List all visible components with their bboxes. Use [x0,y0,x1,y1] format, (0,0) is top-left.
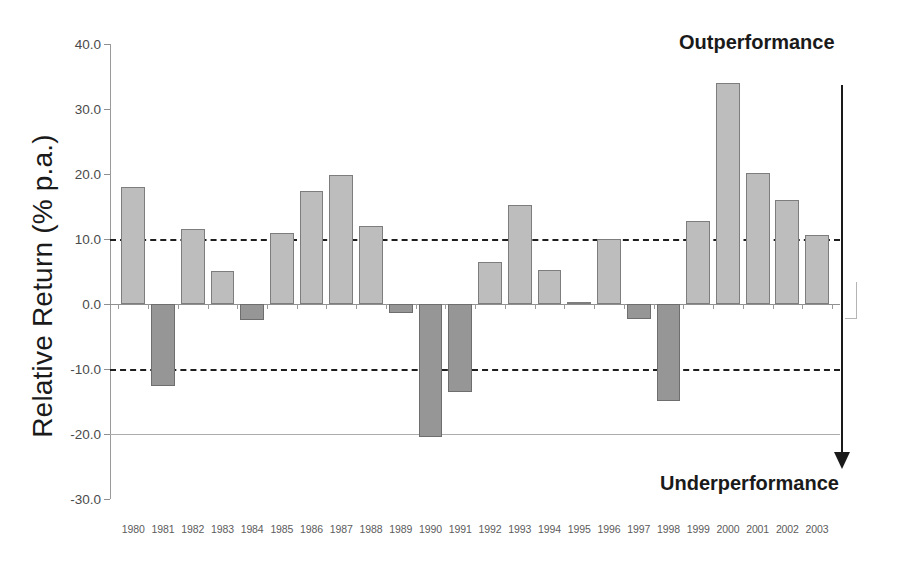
bar-1992 [478,262,502,304]
x-tick-label-1996: 1996 [597,523,620,535]
reference-line-solid [110,434,840,435]
y-tick-mark [104,174,110,175]
x-tick-mark [148,304,149,309]
x-tick-mark [237,304,238,309]
reference-line-dashed [110,369,840,371]
y-tick-label: 40.0 [75,37,101,52]
x-tick-label-2000: 2000 [716,523,739,535]
x-tick-label-2003: 2003 [806,523,829,535]
x-tick-mark [713,304,714,309]
y-tick-label: 10.0 [75,232,101,247]
x-tick-label-1992: 1992 [479,523,502,535]
x-tick-mark [505,304,506,309]
y-tick-mark [104,369,110,370]
y-tick-label: -10.0 [70,362,101,377]
y-axis-line [110,44,111,499]
x-tick-mark [356,304,357,309]
bar-1997 [627,304,651,319]
x-tick-mark [118,304,119,309]
bar-2002 [775,200,799,304]
bar-1984 [240,304,264,320]
x-tick-label-1999: 1999 [687,523,710,535]
bar-2001 [746,173,770,304]
bar-1989 [389,304,413,313]
bar-1994 [538,270,562,304]
x-tick-mark [416,304,417,309]
x-tick-mark [326,304,327,309]
y-tick-mark [104,434,110,435]
x-tick-mark [743,304,744,309]
bar-1981 [151,304,175,386]
x-tick-label-1988: 1988 [360,523,383,535]
y-tick-mark [104,44,110,45]
x-tick-label-2001: 2001 [746,523,769,535]
x-tick-mark [178,304,179,309]
bar-1996 [597,239,621,304]
x-tick-mark [654,304,655,309]
x-tick-mark [624,304,625,309]
plot-edge-stub [856,282,857,319]
x-tick-label-1995: 1995 [568,523,591,535]
x-tick-label-1986: 1986 [300,523,323,535]
x-tick-label-1983: 1983 [211,523,234,535]
x-tick-label-2002: 2002 [776,523,799,535]
x-tick-label-1980: 1980 [122,523,145,535]
bar-1985 [270,233,294,304]
x-tick-mark [683,304,684,309]
bar-1987 [329,175,353,304]
bar-1991 [448,304,472,392]
x-tick-label-1984: 1984 [241,523,264,535]
bar-1998 [657,304,681,401]
x-tick-label-1985: 1985 [270,523,293,535]
y-tick-mark [104,109,110,110]
outperformance-annotation: Outperformance [679,31,835,54]
bar-1980 [121,187,145,304]
x-tick-label-1981: 1981 [151,523,174,535]
x-tick-mark [564,304,565,309]
x-tick-label-1997: 1997 [627,523,650,535]
bar-1995 [567,302,591,304]
x-tick-label-1990: 1990 [419,523,442,535]
bar-1999 [686,221,710,304]
bar-1982 [181,229,205,304]
x-tick-mark [267,304,268,309]
bar-2003 [805,235,829,304]
underperformance-annotation: Underperformance [660,472,839,495]
bar-1983 [211,271,235,304]
y-tick-label: -20.0 [70,427,101,442]
x-tick-mark [832,304,833,309]
x-tick-label-1993: 1993 [508,523,531,535]
y-tick-mark [104,499,110,500]
x-tick-label-1994: 1994 [538,523,561,535]
x-tick-mark [475,304,476,309]
direction-arrow-head-icon [834,452,850,469]
y-tick-label: 0.0 [82,297,101,312]
bar-1993 [508,205,532,304]
x-tick-mark [594,304,595,309]
x-tick-mark [535,304,536,309]
x-tick-label-1998: 1998 [657,523,680,535]
bar-2000 [716,83,740,304]
direction-arrow-shaft [841,85,843,457]
x-tick-label-1987: 1987 [330,523,353,535]
y-axis-title: Relative Return (% p.a.) [27,76,59,496]
x-tick-mark [297,304,298,309]
y-tick-mark [104,239,110,240]
y-tick-label: -30.0 [70,492,101,507]
x-tick-label-1982: 1982 [181,523,204,535]
y-tick-label: 20.0 [75,167,101,182]
x-tick-mark [773,304,774,309]
x-tick-label-1991: 1991 [449,523,472,535]
relative-return-bar-chart: Relative Return (% p.a.) 40.030.020.010.… [0,0,913,563]
y-tick-mark [104,304,110,305]
plot-edge-stub-foot [845,318,857,319]
y-tick-label: 30.0 [75,102,101,117]
x-tick-mark [386,304,387,309]
x-tick-mark [445,304,446,309]
x-tick-mark [802,304,803,309]
x-tick-label-1989: 1989 [389,523,412,535]
x-tick-mark [208,304,209,309]
plot-area: 40.030.020.010.00.0-10.0-20.0-30.0 [110,44,840,499]
bar-1988 [359,226,383,304]
bar-1990 [419,304,443,437]
